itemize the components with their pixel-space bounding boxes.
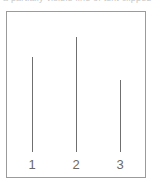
- clipped-caption-text: a partially visible line of text clipped…: [3, 0, 153, 3]
- chart-plot-frame: [6, 11, 146, 178]
- clipped-caption-strip: a partially visible line of text clipped…: [0, 0, 153, 7]
